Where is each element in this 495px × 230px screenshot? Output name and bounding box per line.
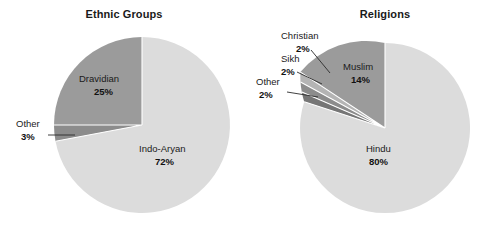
religions-title: Religions bbox=[360, 8, 410, 20]
label-indo-aryan-name: Indo-Aryan bbox=[139, 143, 185, 154]
label-muslim-name: Muslim bbox=[343, 61, 373, 72]
charts-canvas: Ethnic Groups Dravidian 25% Indo-Aryan 7… bbox=[0, 0, 495, 230]
label-hindu-name: Hindu bbox=[366, 143, 391, 154]
label-other-ethnic-name: Other bbox=[16, 118, 40, 129]
label-dravidian-name: Dravidian bbox=[79, 73, 119, 84]
label-sikh-name: Sikh bbox=[281, 53, 299, 64]
religions-chart: Religions Muslim 14% Hindu 80% Christian… bbox=[256, 8, 470, 213]
label-sikh-pct: 2% bbox=[281, 66, 295, 77]
label-other-ethnic-pct: 3% bbox=[21, 131, 35, 142]
label-other-religion-name: Other bbox=[256, 76, 280, 87]
label-dravidian-pct: 25% bbox=[94, 86, 114, 97]
label-muslim-pct: 14% bbox=[351, 74, 371, 85]
label-christian-name: Christian bbox=[281, 30, 319, 41]
ethnic-groups-title: Ethnic Groups bbox=[85, 8, 162, 20]
label-hindu-pct: 80% bbox=[369, 156, 389, 167]
pie-chart-figure: Ethnic Groups Dravidian 25% Indo-Aryan 7… bbox=[0, 0, 495, 230]
label-indo-aryan-pct: 72% bbox=[155, 156, 175, 167]
label-other-religion-pct: 2% bbox=[259, 89, 273, 100]
ethnic-groups-chart: Ethnic Groups Dravidian 25% Indo-Aryan 7… bbox=[16, 8, 230, 213]
